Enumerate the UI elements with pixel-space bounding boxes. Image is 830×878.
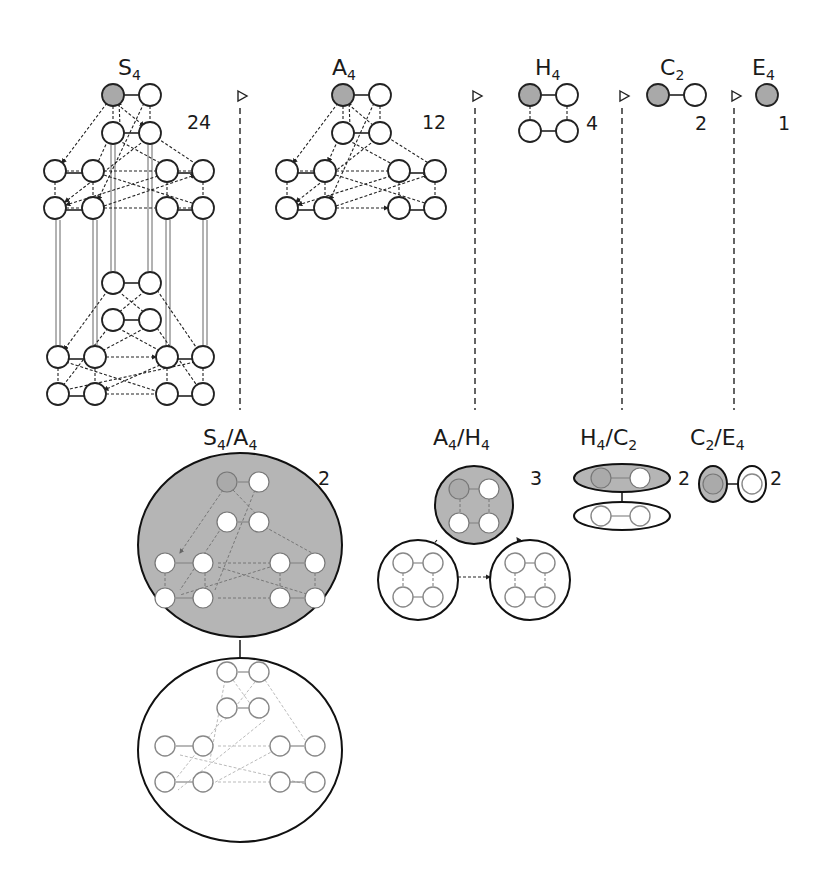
label-S4-A4: S4/A4 (203, 425, 257, 453)
identity-node (102, 84, 124, 106)
order-H4: 4 (586, 112, 598, 134)
coset-connectors (56, 145, 207, 345)
generator-edges-lower (58, 290, 203, 394)
generator-edges (287, 101, 435, 208)
label-H4-C2: H4/C2 (580, 425, 637, 453)
svg-text:H4/C2: H4/C2 (580, 425, 637, 453)
svg-text:S4: S4 (118, 55, 141, 83)
order-H4-C2: 2 (678, 467, 690, 489)
svg-text:C2/E4: C2/E4 (690, 425, 745, 453)
coset-white (378, 540, 458, 620)
coset-shaded (138, 453, 342, 637)
solid-edges-lower (69, 283, 192, 396)
label-A4-H4: A4/H4 (433, 425, 490, 453)
label-C2: C2 (660, 55, 684, 83)
svg-text:S4/A4: S4/A4 (203, 425, 257, 453)
diagram-canvas: S4 A4 H4 C2 E4 24 12 4 2 1 (0, 0, 830, 878)
svg-text:A4: A4 (332, 55, 356, 83)
label-E4: E4 (752, 55, 775, 83)
identity-node (519, 84, 541, 106)
quotient-C2-E4 (699, 466, 766, 502)
svg-text:C2: C2 (660, 55, 684, 83)
coset-white (490, 540, 570, 620)
label-A4: A4 (332, 55, 356, 83)
identity-node (756, 84, 778, 106)
identity-node (332, 84, 354, 106)
quotient-S4-A4 (138, 453, 342, 842)
svg-text:A4/H4: A4/H4 (433, 425, 490, 453)
label-S4: S4 (118, 55, 141, 83)
solid-edges (298, 95, 424, 210)
quotient-H4-C2 (574, 464, 670, 530)
identity-node (647, 84, 669, 106)
quotient-dashed-lines (240, 108, 734, 410)
cayley-graph-E4 (756, 84, 778, 106)
order-S4-A4: 2 (318, 467, 330, 489)
cayley-graph-H4 (519, 84, 578, 142)
quotient-A4-H4 (378, 466, 570, 620)
label-H4: H4 (535, 55, 561, 83)
order-E4: 1 (778, 112, 790, 134)
cayley-graph-C2 (647, 84, 706, 106)
generator-edges-upper (55, 101, 203, 208)
svg-text:H4: H4 (535, 55, 561, 83)
order-S4: 24 (187, 111, 211, 133)
order-A4-H4: 3 (530, 467, 542, 489)
svg-text:E4: E4 (752, 55, 775, 83)
cayley-graph-A4 (276, 84, 446, 219)
coset-shaded (435, 466, 513, 544)
order-C2-E4: 2 (770, 467, 782, 489)
label-C2-E4: C2/E4 (690, 425, 745, 453)
order-A4: 12 (422, 111, 446, 133)
order-C2: 2 (695, 112, 707, 134)
